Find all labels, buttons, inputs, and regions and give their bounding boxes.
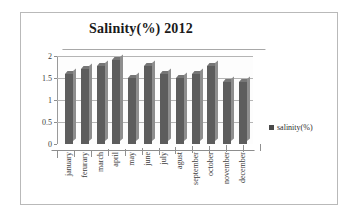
x-label-january: january <box>65 152 73 176</box>
bar-slot <box>140 56 156 144</box>
y-tick-label: 0 <box>48 140 52 149</box>
bar-slot <box>124 56 140 144</box>
x-tick-mark <box>260 144 261 151</box>
x-label-slot: may <box>124 152 140 208</box>
chart-title: Salinity(%) 2012 <box>21 21 261 37</box>
bar-march[interactable] <box>97 66 105 144</box>
bar-may[interactable] <box>128 78 136 144</box>
x-tick-mark <box>243 145 244 152</box>
bar-ferurary[interactable] <box>81 69 89 144</box>
x-label-may: may <box>128 152 136 166</box>
bar-slot <box>156 56 172 144</box>
y-tick-label: 0.5 <box>42 118 52 127</box>
y-tick-label: 2 <box>48 52 52 61</box>
bar-slot <box>93 56 109 144</box>
x-label-slot: june <box>140 152 156 208</box>
bar-june[interactable] <box>144 66 152 144</box>
bar-slot <box>203 56 219 144</box>
x-label-slot: agust <box>172 152 188 208</box>
bar-agust[interactable] <box>176 78 184 144</box>
square-marker-icon <box>269 125 274 130</box>
plot-area: 00.511.52 <box>57 56 253 144</box>
bar-december[interactable] <box>239 82 247 144</box>
bar-slot <box>235 56 251 144</box>
bar-slot <box>219 56 235 144</box>
x-label-slot: july <box>156 152 172 208</box>
y-tick-label: 1.5 <box>42 74 52 83</box>
x-label-slot: january <box>61 152 77 208</box>
x-label-june: june <box>144 152 152 166</box>
legend-label: salinity(%) <box>277 123 313 132</box>
x-label-slot: october <box>203 152 219 208</box>
x-label-march: march <box>97 152 105 172</box>
bar-slot <box>77 56 93 144</box>
bar-april[interactable] <box>112 60 120 144</box>
bar-july[interactable] <box>160 74 168 144</box>
bar-november[interactable] <box>223 82 231 144</box>
x-label-slot: ferurary <box>77 152 93 208</box>
x-label-slot: september <box>188 152 204 208</box>
bar-series <box>57 56 253 144</box>
x-label-slot: december <box>235 152 251 208</box>
x-label-september: september <box>192 152 200 185</box>
x-axis-labels: januaryferurarymarchaprilmayjunejulyagus… <box>57 152 253 208</box>
legend: salinity(%) <box>269 123 313 132</box>
bar-slot <box>61 56 77 144</box>
x-label-ferurary: ferurary <box>81 152 89 178</box>
bar-january[interactable] <box>65 74 73 144</box>
x-label-slot: november <box>219 152 235 208</box>
x-label-slot: march <box>93 152 109 208</box>
bar-october[interactable] <box>207 66 215 144</box>
x-label-october: october <box>207 152 215 176</box>
x-label-april: april <box>112 152 120 167</box>
x-label-agust: agust <box>176 152 184 169</box>
x-label-november: november <box>223 152 231 184</box>
chart-container: Salinity(%) 2012 00.511.52 januaryferura… <box>20 12 338 205</box>
x-label-december: december <box>239 152 247 183</box>
bar-slot <box>188 56 204 144</box>
bar-slot <box>108 56 124 144</box>
y-tick-label: 1 <box>48 96 52 105</box>
bar-slot <box>172 56 188 144</box>
bar-september[interactable] <box>192 74 200 144</box>
x-axis-ticks <box>57 144 260 152</box>
x-label-slot: april <box>108 152 124 208</box>
plot-top-edge <box>57 49 266 56</box>
x-label-july: july <box>160 152 168 164</box>
